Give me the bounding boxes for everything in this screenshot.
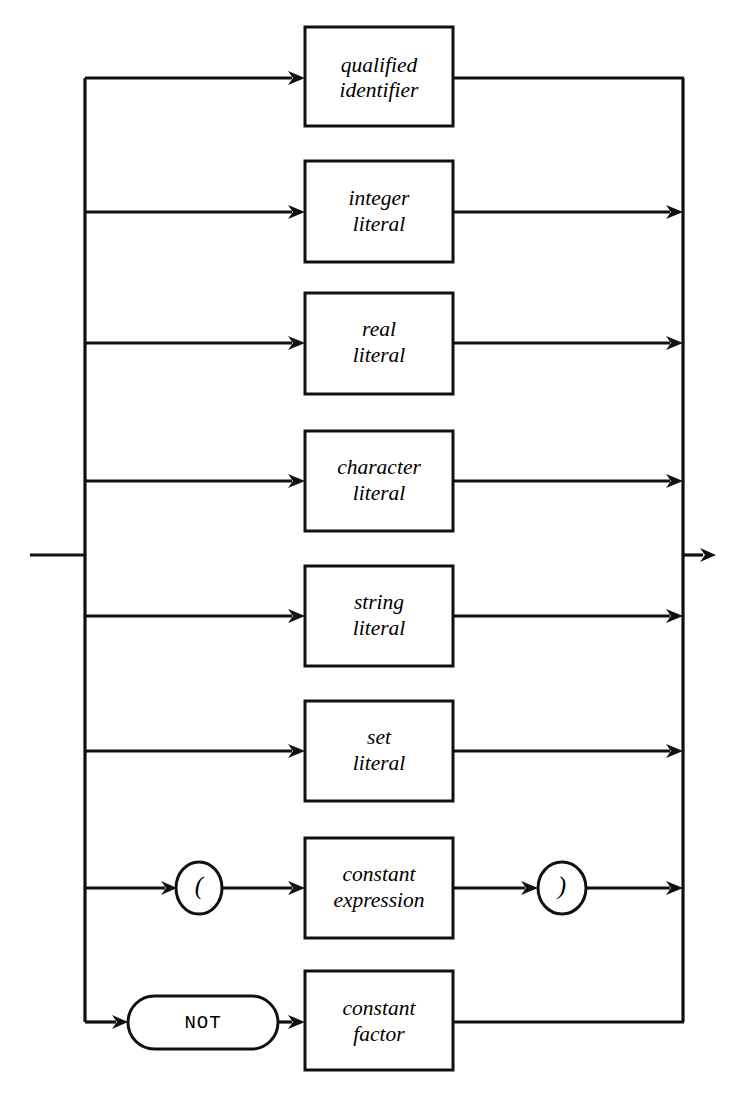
nonterminal-label-line2: literal bbox=[353, 616, 406, 640]
railroad-diagram-canvas: qualified identifier integer literal rea… bbox=[0, 0, 753, 1096]
row-constant-factor: NOT constant factor bbox=[85, 971, 684, 1070]
nonterminal-box-constant-factor[interactable] bbox=[305, 971, 453, 1070]
row-real-literal: real literal bbox=[85, 293, 683, 394]
row-character-literal: character literal bbox=[85, 431, 683, 531]
nonterminal-label-line2: identifier bbox=[340, 78, 419, 102]
nonterminal-label-line1: character bbox=[337, 455, 421, 479]
nonterminal-label-line2: literal bbox=[353, 481, 406, 505]
row-set-literal: set literal bbox=[85, 701, 683, 801]
exit-line-group bbox=[682, 548, 716, 562]
terminal-label-not: NOT bbox=[184, 1012, 221, 1034]
nonterminal-label-line1: qualified bbox=[341, 53, 418, 77]
nonterminal-label-line2: literal bbox=[353, 751, 406, 775]
nonterminal-label-line2: expression bbox=[333, 888, 424, 912]
nonterminal-label-line2: literal bbox=[353, 343, 406, 367]
railroad-diagram-root: qualified identifier integer literal rea… bbox=[0, 0, 753, 1096]
nonterminal-label-line1: real bbox=[362, 317, 396, 341]
nonterminal-label-line1: string bbox=[354, 590, 404, 614]
nonterminal-label-line1: set bbox=[367, 725, 392, 749]
nonterminal-label-line2: literal bbox=[353, 212, 406, 236]
nonterminal-label-line1: integer bbox=[349, 186, 411, 210]
nonterminal-label-line1: constant bbox=[343, 996, 417, 1020]
nonterminal-label-line2: factor bbox=[353, 1022, 405, 1046]
row-integer-literal: integer literal bbox=[85, 161, 683, 262]
row-constant-expression: ( constant expression ) bbox=[85, 838, 683, 938]
row-qualified-identifier: qualified identifier bbox=[85, 27, 684, 126]
row-string-literal: string literal bbox=[85, 566, 683, 666]
nonterminal-label-line1: constant bbox=[343, 862, 417, 886]
terminal-label-close-paren: ) bbox=[556, 872, 566, 900]
